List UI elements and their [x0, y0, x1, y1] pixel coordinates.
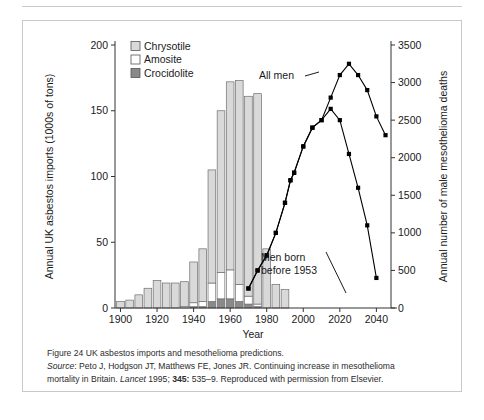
bar-segment — [144, 288, 152, 308]
x-tick-label: 2020 — [328, 313, 352, 325]
caption-source-label: Source — [47, 361, 74, 371]
bar-segment — [245, 304, 253, 308]
line-marker — [374, 114, 378, 118]
y-tick-label-right: 2500 — [398, 114, 422, 126]
bar-segment — [281, 290, 289, 308]
bar-segment — [190, 262, 198, 303]
legend-swatch — [131, 55, 140, 64]
y-tick-label-right: 0 — [398, 302, 404, 314]
caption-title: UK asbestos imports and mesothelioma pre… — [86, 348, 284, 358]
caption-line-3: mortality in Britain. Lancet 1995; 345: … — [47, 373, 443, 386]
bar-segment — [226, 270, 234, 299]
annotation-men-born-line2: before 1953 — [261, 264, 317, 276]
x-tick-label: 2040 — [365, 313, 389, 325]
chart-legend: ChrysotileAmositeCrocidolite — [131, 40, 194, 79]
bar-segment — [235, 284, 243, 301]
y-axis-right-ticks: 0500100015002000250030003500 — [391, 39, 422, 314]
legend-swatch — [131, 42, 140, 51]
y-tick-label-left: 50 — [96, 236, 108, 248]
legend-label: Crocidolite — [144, 67, 194, 79]
bar-segment — [208, 170, 216, 283]
line-marker — [356, 186, 360, 190]
y-tick-label-right: 500 — [398, 264, 416, 276]
y-tick-label-left: 150 — [90, 104, 108, 116]
bar-segment — [171, 283, 179, 308]
line-marker — [338, 73, 342, 77]
annotation-leader-men-born — [326, 252, 346, 293]
y-tick-label-left: 100 — [90, 170, 108, 182]
line-marker — [329, 96, 333, 100]
y-tick-label-left: 200 — [90, 39, 108, 51]
line-marker — [347, 152, 351, 156]
line-marker — [347, 62, 351, 66]
line-marker — [319, 118, 323, 122]
x-tick-label: 1960 — [218, 313, 242, 325]
bar-segment — [199, 249, 207, 302]
asbestos-mesothelioma-chart: 0501001502000500100015002000250030003500… — [23, 21, 461, 339]
caption-source-part-a: mortality in Britain. — [47, 374, 120, 384]
y-tick-label-right: 3500 — [398, 39, 422, 51]
bar-segment — [208, 283, 216, 301]
figure-container: 0501001502000500100015002000250030003500… — [22, 20, 462, 392]
bar-segment — [245, 96, 253, 296]
x-tick-label: 1900 — [109, 313, 133, 325]
line-marker — [274, 231, 278, 235]
legend-label: Chrysotile — [144, 40, 191, 52]
line-marker — [301, 144, 305, 148]
caption-line-1: Figure 24 UK asbestos imports and mesoth… — [47, 347, 443, 360]
bar-segment — [254, 304, 262, 307]
bar-segment — [162, 283, 170, 308]
y-tick-label-right: 1500 — [398, 189, 422, 201]
annotation-men-born-line1: Men born — [261, 251, 306, 263]
caption-source-part-b: 1995; — [146, 374, 172, 384]
y-axis-title-right: Annual number of male mesothelioma death… — [437, 71, 449, 282]
chart-plot-area: 0501001502000500100015002000250030003500… — [23, 21, 461, 339]
bar-segment — [226, 82, 234, 270]
line-marker — [310, 126, 314, 130]
legend-label: Amosite — [144, 53, 182, 65]
bar-segment — [181, 282, 189, 307]
caption-source-part-c: 535–9. Reproduced with permission from E… — [189, 374, 383, 384]
bar-segment — [117, 301, 125, 308]
line-marker — [288, 178, 292, 182]
bar-segment — [235, 81, 243, 285]
x-tick-label: 1980 — [255, 313, 279, 325]
bar-segment — [153, 280, 161, 308]
caption-source-authors: : Peto J, Hodgson JT, Matthews FE, Jones… — [74, 361, 395, 371]
line-marker — [246, 286, 250, 290]
line-marker — [374, 276, 378, 280]
line-marker — [338, 118, 342, 122]
x-axis-title: Year — [242, 328, 264, 339]
bar-segment — [272, 284, 280, 308]
y-axis-title-left: Annual UK asbestos imports (1000s of ton… — [43, 74, 55, 279]
caption-journal-name: Lancet — [120, 374, 146, 384]
line-marker — [365, 223, 369, 227]
bar-segment — [190, 303, 198, 307]
bar-segment — [217, 299, 225, 308]
line-marker — [356, 73, 360, 77]
x-tick-label: 2000 — [292, 313, 316, 325]
page-top-divider — [22, 6, 462, 7]
bar-segment — [135, 295, 143, 308]
y-tick-label-left: 0 — [102, 302, 108, 314]
y-axis-left-ticks: 050100150200 — [90, 39, 115, 314]
bar-segment — [199, 301, 207, 306]
bar-segment — [235, 301, 243, 308]
bar-segment — [126, 300, 134, 308]
bar-segment — [245, 296, 253, 304]
annotation-leader-all-men — [305, 72, 319, 76]
bar-segment — [226, 299, 234, 308]
caption-line-2: Source: Peto J, Hodgson JT, Matthews FE,… — [47, 360, 443, 373]
y-tick-label-right: 3000 — [398, 76, 422, 88]
figure-page: 0501001502000500100015002000250030003500… — [0, 0, 484, 420]
line-marker — [255, 268, 259, 272]
line-marker — [365, 88, 369, 92]
y-tick-label-right: 2000 — [398, 151, 422, 163]
x-axis-ticks: 19001920194019601980200020202040 — [109, 308, 388, 325]
figure-caption: Figure 24 UK asbestos imports and mesoth… — [47, 347, 443, 386]
line-marker — [283, 201, 287, 205]
line-marker — [383, 133, 387, 137]
y-tick-label-right: 1000 — [398, 226, 422, 238]
legend-swatch — [131, 69, 140, 78]
x-tick-label: 1920 — [145, 313, 169, 325]
